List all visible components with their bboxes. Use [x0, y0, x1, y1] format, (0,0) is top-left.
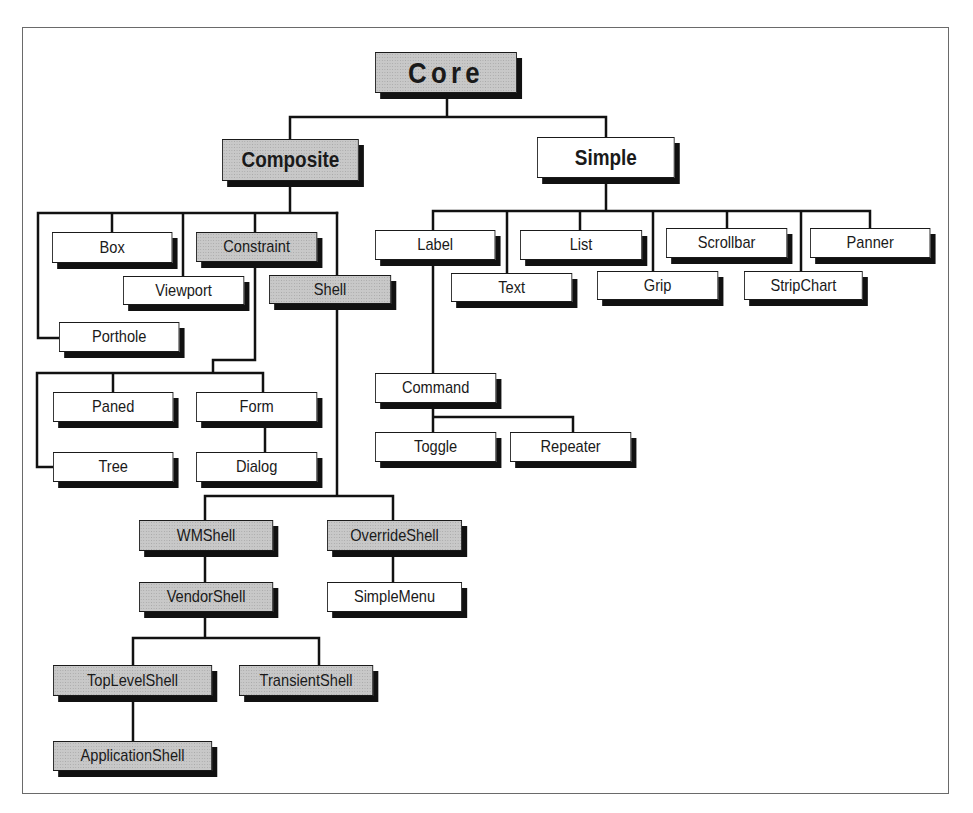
edge-vendorshell-children: [133, 612, 319, 665]
node-label: WMShell: [177, 526, 235, 546]
node-label: Command: [402, 378, 469, 398]
node-label: Composite: [241, 147, 339, 173]
node-label: Viewport: [155, 281, 212, 301]
node-label: Shell: [314, 280, 347, 300]
node-label-widget: Label: [375, 230, 495, 260]
node-porthole: Porthole: [59, 322, 179, 352]
node-command: Command: [375, 373, 496, 403]
node-toggle: Toggle: [375, 432, 496, 462]
node-core: Core: [375, 52, 517, 93]
node-shell: Shell: [269, 275, 391, 304]
node-label: Repeater: [541, 437, 601, 457]
node-label: TopLevelShell: [87, 671, 178, 691]
node-composite: Composite: [222, 139, 359, 181]
node-label: StripChart: [770, 276, 836, 296]
node-label: Panner: [847, 233, 894, 253]
node-scrollbar: Scrollbar: [666, 228, 787, 258]
node-label: Toggle: [414, 437, 457, 457]
node-label: Box: [100, 238, 125, 258]
node-label: Grip: [644, 276, 672, 296]
node-label: Label: [417, 235, 453, 255]
node-form: Form: [196, 392, 317, 422]
node-vendorshell: VendorShell: [139, 582, 273, 612]
node-label: VendorShell: [167, 587, 246, 607]
node-label: TransientShell: [260, 671, 353, 691]
node-dialog: Dialog: [196, 452, 317, 482]
node-simplemenu: SimpleMenu: [327, 582, 462, 612]
node-simple: Simple: [537, 137, 675, 178]
node-list: List: [520, 230, 642, 260]
node-viewport: Viewport: [123, 276, 244, 305]
edge-core-children: [290, 93, 606, 139]
node-wmshell: WMShell: [139, 520, 273, 551]
node-label: SimpleMenu: [354, 587, 435, 607]
node-repeater: Repeater: [510, 432, 631, 462]
node-label: Simple: [575, 145, 637, 171]
node-tree: Tree: [53, 452, 173, 482]
node-label: Tree: [98, 457, 128, 477]
node-label: Scrollbar: [698, 233, 756, 253]
node-overrideshell: OverrideShell: [327, 520, 462, 551]
node-label: Constraint: [223, 237, 290, 257]
node-label: List: [570, 235, 593, 255]
node-grip: Grip: [597, 271, 718, 300]
node-panner: Panner: [810, 228, 930, 258]
node-applicationshell: ApplicationShell: [53, 741, 212, 771]
node-label: ApplicationShell: [81, 746, 185, 766]
node-label: Form: [240, 397, 274, 417]
node-toplevelshell: TopLevelShell: [53, 665, 212, 696]
node-constraint: Constraint: [196, 232, 317, 262]
node-label: Text: [498, 278, 525, 298]
node-stripchart: StripChart: [744, 271, 863, 300]
node-text: Text: [451, 273, 572, 302]
node-box: Box: [52, 232, 172, 263]
node-transientshell: TransientShell: [239, 665, 373, 696]
node-label: Paned: [92, 397, 134, 417]
node-label: Dialog: [236, 457, 277, 477]
node-paned: Paned: [53, 392, 173, 422]
edge-simple-children: [433, 178, 870, 273]
node-label: Porthole: [92, 327, 146, 347]
edge-command-children: [433, 403, 573, 432]
node-label: OverrideShell: [350, 526, 439, 546]
node-label: Core: [408, 56, 484, 90]
